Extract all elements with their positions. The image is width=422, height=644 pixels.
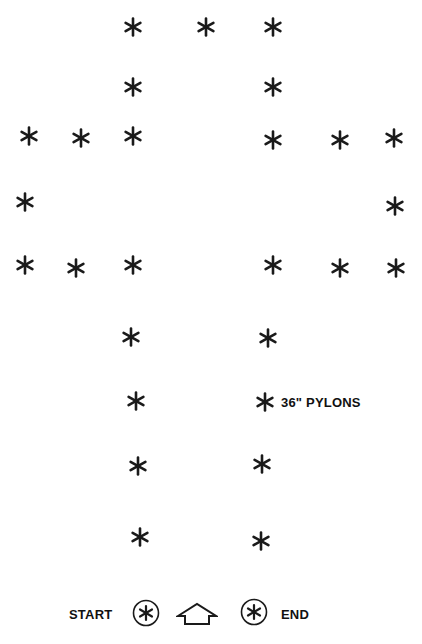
pylon-icon — [122, 76, 144, 98]
pylon-icon — [125, 390, 147, 412]
pylon-icon — [262, 129, 284, 151]
pylon-icon — [14, 191, 36, 213]
direction-arrow-icon — [176, 602, 218, 626]
pylon-icon — [18, 125, 40, 147]
pylon-icon — [122, 16, 144, 38]
pylon-icon — [65, 257, 87, 279]
pylon-icon — [122, 125, 144, 147]
pylon-icon — [70, 127, 92, 149]
pylon-icon — [254, 391, 276, 413]
pylon-icon — [384, 195, 406, 217]
pylon-icon — [14, 254, 36, 276]
start-pylon-icon — [132, 599, 160, 627]
pylon-icon — [262, 254, 284, 276]
pylon-icon — [127, 455, 149, 477]
pylon-icon — [262, 16, 284, 38]
pylon-size-label: 36" PYLONS — [281, 395, 361, 410]
pylon-icon — [329, 257, 351, 279]
end-pylon-icon — [240, 598, 268, 626]
start-label: START — [69, 607, 112, 622]
pylon-icon — [251, 453, 273, 475]
pylon-icon — [129, 526, 151, 548]
pylon-icon — [329, 129, 351, 151]
pylon-icon — [122, 254, 144, 276]
pylon-icon — [262, 76, 284, 98]
pylon-icon — [257, 327, 279, 349]
pylon-icon — [385, 257, 407, 279]
pylon-icon — [250, 530, 272, 552]
pylon-icon — [120, 326, 142, 348]
pylon-icon — [195, 16, 217, 38]
pylon-icon — [383, 127, 405, 149]
end-label: END — [281, 607, 309, 622]
